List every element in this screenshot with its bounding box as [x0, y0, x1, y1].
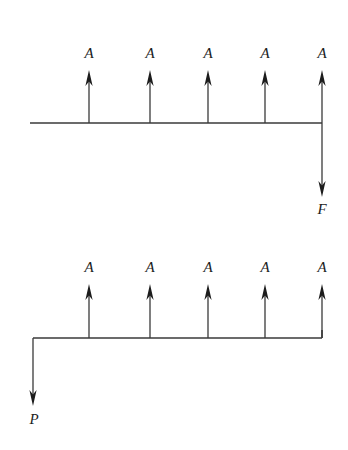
upper-load-label-5: A [316, 45, 327, 61]
upper-diagram: A A A A [30, 45, 327, 217]
upper-load-arrow-3: A [202, 45, 213, 123]
lower-load-label-1: A [83, 259, 94, 275]
upper-load-label-2: A [144, 45, 155, 61]
upper-reaction-arrow-f: F [316, 123, 327, 217]
upper-reaction-label-f: F [316, 201, 327, 217]
upper-load-arrow-2: A [144, 45, 155, 123]
lower-diagram: A A A A [28, 259, 327, 427]
upper-load-label-4: A [259, 45, 270, 61]
upper-load-arrow-4: A [259, 45, 270, 123]
lower-load-label-5: A [316, 259, 327, 275]
lower-load-arrow-5: A [316, 259, 327, 338]
lower-load-arrow-3: A [202, 259, 213, 338]
upper-load-arrow-1: A [83, 45, 94, 123]
upper-load-label-1: A [83, 45, 94, 61]
diagram-canvas: A A A A [0, 0, 348, 450]
lower-reaction-label-p: P [28, 411, 38, 427]
lower-load-label-3: A [202, 259, 213, 275]
upper-load-arrow-5: A [316, 45, 327, 123]
upper-load-label-3: A [202, 45, 213, 61]
lower-load-arrow-2: A [144, 259, 155, 338]
lower-reaction-arrow-p: P [28, 338, 38, 427]
lower-load-label-2: A [144, 259, 155, 275]
lower-load-label-4: A [259, 259, 270, 275]
lower-load-arrow-1: A [83, 259, 94, 338]
free-body-diagram-figure: A A A A [0, 0, 348, 450]
lower-load-arrow-4: A [259, 259, 270, 338]
